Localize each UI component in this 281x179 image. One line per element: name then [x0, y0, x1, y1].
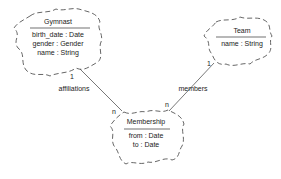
members-to-cardinality: n	[165, 101, 169, 108]
gymnast-title: Gymnast	[44, 18, 72, 26]
diagram-canvas: Gymnast birth_date : Date gender : Gende…	[0, 0, 281, 179]
class-team: Team name : String	[204, 17, 272, 65]
gymnast-attr-gender: gender : Gender	[33, 40, 85, 48]
class-membership: Membership from : Date to : Date	[110, 110, 184, 164]
class-gymnast: Gymnast birth_date : Date gender : Gende…	[14, 9, 102, 76]
affiliations-to-cardinality: n	[112, 108, 116, 115]
members-label: members	[178, 85, 208, 92]
gymnast-attr-birth-date: birth_date : Date	[32, 31, 84, 39]
association-members: 1 members n	[165, 60, 214, 111]
team-attr-name: name : String	[221, 40, 263, 48]
team-title: Team	[233, 27, 250, 34]
members-from-cardinality: 1	[207, 60, 211, 67]
affiliations-label: affiliations	[58, 85, 90, 92]
membership-attr-from: from : Date	[129, 132, 164, 139]
association-affiliations: 1 affiliations n	[58, 69, 122, 115]
membership-title: Membership	[127, 118, 166, 126]
membership-attr-to: to : Date	[133, 141, 160, 148]
gymnast-attr-name: name : String	[37, 49, 79, 57]
affiliations-from-cardinality: 1	[70, 73, 74, 80]
